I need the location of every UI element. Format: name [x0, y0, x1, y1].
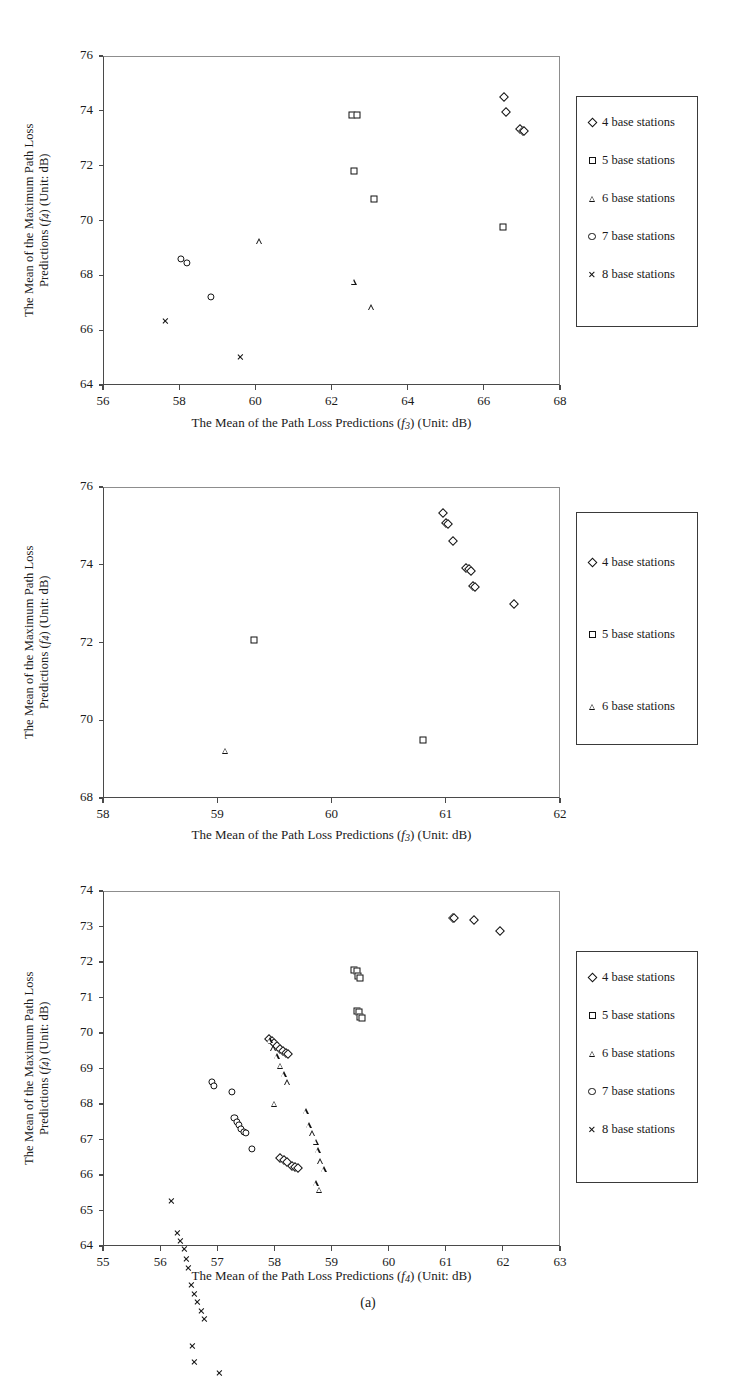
- y-axis-tick: [99, 797, 103, 798]
- y-axis-label: The Mean of the Maximum Path Loss Predic…: [22, 891, 56, 1246]
- x-axis-tick-label: 66: [464, 393, 504, 409]
- x-axis-tick: [559, 1246, 560, 1251]
- legend-item-4-base-stations[interactable]: 4 base stations: [585, 115, 675, 130]
- data-point-square-marker: [357, 974, 364, 981]
- data-point-circle-marker: [207, 294, 214, 301]
- x-axis-tick-label: 60: [312, 806, 352, 822]
- data-point-circle-marker: [248, 1145, 255, 1152]
- data-point-circle-marker: [183, 259, 190, 266]
- legend-item-4-base-stations[interactable]: 4 base stations: [585, 555, 675, 570]
- legend-item-label: 8 base stations: [602, 267, 675, 282]
- y-axis-tick: [99, 1068, 103, 1069]
- x-axis-label: The Mean of the Path Loss Predictions (f…: [103, 827, 560, 843]
- legend-item-8-base-stations[interactable]: 8 base stations: [585, 267, 675, 282]
- legend-item-label: 7 base stations: [602, 1084, 675, 1099]
- data-point-circle-marker: [228, 1088, 235, 1095]
- x-axis-tick: [331, 1246, 332, 1251]
- y-axis-tick-label: 70: [63, 212, 93, 228]
- data-point-cross-marker: [181, 1246, 188, 1253]
- data-point-diamond-marker: [466, 566, 476, 576]
- x-axis-tick: [502, 1246, 503, 1251]
- data-point-diamond-marker: [439, 508, 449, 518]
- data-point-diamond-marker: [275, 1153, 285, 1163]
- legend: 4 base stations5 base stations6 base sta…: [576, 951, 698, 1183]
- data-point-circle-marker: [208, 1078, 215, 1085]
- x-axis-tick: [102, 1246, 103, 1251]
- data-point-diamond-marker: [267, 1036, 277, 1046]
- data-point-square-marker: [351, 168, 358, 175]
- y-axis-tick-label: 74: [63, 556, 93, 572]
- y-axis-tick: [99, 55, 103, 56]
- data-point-cross-marker: [177, 1237, 184, 1244]
- y-axis-tick: [99, 165, 103, 166]
- x-axis-tick: [179, 385, 180, 390]
- y-axis-tick: [99, 720, 103, 721]
- scatter-chart-2: 68707274765859606162The Mean of the Maxi…: [0, 0, 736, 1378]
- data-point-circle-marker: [240, 1128, 247, 1135]
- data-point-circle-marker: [242, 1130, 249, 1137]
- legend: 4 base stations5 base stations6 base sta…: [576, 512, 698, 745]
- x-axis-tick-label: 58: [254, 1254, 294, 1270]
- x-axis-tick-label: 58: [159, 393, 199, 409]
- data-point-triangle-marker: [271, 1101, 277, 1107]
- data-point-diamond-marker: [448, 536, 458, 546]
- data-point-triangle-marker: [309, 1130, 315, 1136]
- legend-item-label: 4 base stations: [602, 555, 675, 570]
- data-point-diamond-marker: [499, 92, 509, 102]
- data-point-diamond-marker: [278, 1046, 288, 1056]
- y-axis-tick: [99, 926, 103, 927]
- legend-item-8-base-stations[interactable]: 8 base stations: [585, 1122, 675, 1137]
- data-point-cross-marker: [201, 1315, 208, 1322]
- legend-item-6-base-stations[interactable]: 6 base stations: [585, 1046, 675, 1061]
- legend-item-label: 5 base stations: [602, 1008, 675, 1023]
- x-axis-tick-label: 63: [540, 1254, 580, 1270]
- data-point-triangle-marker: [270, 1045, 276, 1051]
- figure-page: 6466687072747656586062646668The Mean of …: [0, 0, 736, 1378]
- y-axis-tick-label: 66: [63, 1166, 93, 1182]
- x-axis-tick: [160, 1246, 161, 1251]
- y-axis-tick-label: 66: [63, 321, 93, 337]
- data-point-triangle-marker: [303, 1108, 309, 1114]
- data-point-triangle-marker: [317, 1158, 323, 1164]
- legend-item-6-base-stations[interactable]: 6 base stations: [585, 699, 675, 714]
- y-axis-tick-label: 76: [63, 478, 93, 494]
- x-axis-tick: [217, 798, 218, 803]
- y-axis-tick: [99, 1139, 103, 1140]
- legend-item-label: 8 base stations: [602, 1122, 675, 1137]
- legend-item-7-base-stations[interactable]: 7 base stations: [585, 229, 675, 244]
- y-axis-tick-label: 65: [63, 1202, 93, 1218]
- x-axis-tick: [445, 798, 446, 803]
- y-axis-tick-label: 64: [63, 1237, 93, 1253]
- legend-diamond-marker: [585, 559, 599, 566]
- legend-item-5-base-stations[interactable]: 5 base stations: [585, 153, 675, 168]
- data-point-square-marker: [353, 968, 360, 975]
- legend-item-6-base-stations[interactable]: 6 base stations: [585, 191, 675, 206]
- legend-item-label: 6 base stations: [602, 191, 675, 206]
- x-axis-tick-label: 61: [426, 1254, 466, 1270]
- data-point-diamond-marker: [495, 926, 505, 936]
- data-point-diamond-marker: [287, 1161, 297, 1171]
- legend-circle-marker: [585, 233, 599, 240]
- legend-item-4-base-stations[interactable]: 4 base stations: [585, 970, 675, 985]
- legend-item-5-base-stations[interactable]: 5 base stations: [585, 1008, 675, 1023]
- data-point-diamond-marker: [448, 913, 458, 923]
- x-axis-tick-label: 59: [312, 1254, 352, 1270]
- x-axis-tick-label: 60: [369, 1254, 409, 1270]
- legend-circle-marker: [585, 1088, 599, 1095]
- legend-item-5-base-stations[interactable]: 5 base stations: [585, 627, 675, 642]
- y-axis-tick: [99, 1174, 103, 1175]
- data-point-diamond-marker: [464, 564, 474, 574]
- data-point-diamond-marker: [264, 1034, 274, 1044]
- legend-diamond-marker: [585, 974, 599, 981]
- y-axis-tick-label: 73: [63, 918, 93, 934]
- data-point-diamond-marker: [293, 1163, 303, 1173]
- legend-item-7-base-stations[interactable]: 7 base stations: [585, 1084, 675, 1099]
- x-axis-tick-label: 56: [140, 1254, 180, 1270]
- legend-cross-marker: [585, 1126, 599, 1133]
- data-point-cross-marker: [237, 353, 244, 360]
- legend-triangle-marker: [585, 196, 599, 202]
- data-point-diamond-marker: [290, 1162, 300, 1172]
- scatter-chart-1: 6466687072747656586062646668The Mean of …: [0, 0, 736, 1378]
- y-axis-tick: [99, 1245, 103, 1246]
- legend-triangle-marker: [585, 1051, 599, 1057]
